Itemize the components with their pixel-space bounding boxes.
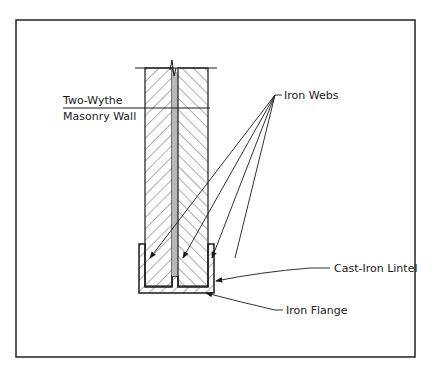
right-wythe — [178, 68, 208, 286]
cavity-gap — [172, 72, 178, 276]
wall-section-diagram: Two-Wythe Masonry Wall Iron Webs Cast-Ir… — [0, 0, 438, 376]
wall-label-line2: Masonry Wall — [63, 110, 136, 123]
iron-webs-label: Iron Webs — [284, 89, 339, 102]
left-wythe — [145, 68, 172, 286]
cast-iron-lintel-label: Cast-Iron Lintel — [334, 262, 417, 275]
iron-flange-label: Iron Flange — [286, 304, 348, 317]
drawing-border — [16, 20, 415, 357]
wall-label-line1: Two-Wythe — [62, 94, 123, 107]
